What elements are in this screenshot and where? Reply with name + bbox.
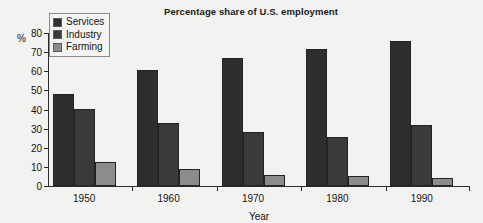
bar-services-1990 — [390, 41, 411, 186]
y-tick — [44, 110, 49, 111]
bar-industry-1960 — [158, 123, 179, 186]
x-tick-label: 1960 — [157, 193, 179, 204]
plot-area: 01020304050607080 19501960197019801990 Y… — [48, 33, 470, 186]
y-tick — [44, 71, 49, 72]
bar-industry-1970 — [243, 132, 264, 186]
x-tick-label: 1980 — [326, 193, 348, 204]
x-axis-title: Year — [48, 211, 470, 222]
y-tick-label: 60 — [31, 66, 42, 77]
x-axis-line — [48, 186, 470, 187]
x-tick — [386, 186, 387, 191]
bar-farming-1950 — [95, 162, 116, 186]
y-tick — [44, 148, 49, 149]
x-tick — [132, 186, 133, 191]
y-tick — [44, 33, 49, 34]
bar-industry-1950 — [74, 109, 95, 186]
bar-farming-1960 — [179, 169, 200, 186]
x-tick — [217, 186, 218, 191]
y-tick-label: 70 — [31, 47, 42, 58]
chart-screenshot: Percentage share of U.S. employment Serv… — [0, 0, 483, 223]
bar-services-1960 — [137, 70, 158, 186]
y-axis-title: % — [17, 33, 26, 44]
chart-title: Percentage share of U.S. employment — [136, 6, 366, 17]
bar-services-1970 — [222, 58, 243, 186]
y-tick — [44, 167, 49, 168]
x-tick — [301, 186, 302, 191]
y-tick — [44, 52, 49, 53]
y-tick — [44, 186, 49, 187]
y-tick-label: 40 — [31, 104, 42, 115]
legend-item: Services — [53, 16, 104, 29]
legend-label-services: Services — [66, 16, 104, 29]
bar-farming-1980 — [348, 176, 369, 186]
bar-farming-1990 — [432, 178, 453, 186]
x-tick — [469, 186, 470, 191]
y-tick-label: 10 — [31, 161, 42, 172]
y-tick-label: 0 — [36, 181, 42, 192]
y-tick-label: 50 — [31, 85, 42, 96]
y-tick-label: 80 — [31, 28, 42, 39]
y-tick — [44, 90, 49, 91]
y-tick — [44, 129, 49, 130]
x-tick-label: 1950 — [73, 193, 95, 204]
bar-services-1950 — [53, 94, 74, 186]
legend-swatch-services — [53, 18, 62, 27]
x-tick-label: 1970 — [242, 193, 264, 204]
bar-industry-1980 — [327, 137, 348, 186]
bar-farming-1970 — [264, 175, 285, 186]
y-tick-label: 20 — [31, 142, 42, 153]
x-tick-label: 1990 — [411, 193, 433, 204]
bar-services-1980 — [306, 49, 327, 186]
bar-industry-1990 — [411, 125, 432, 186]
y-tick-label: 30 — [31, 123, 42, 134]
